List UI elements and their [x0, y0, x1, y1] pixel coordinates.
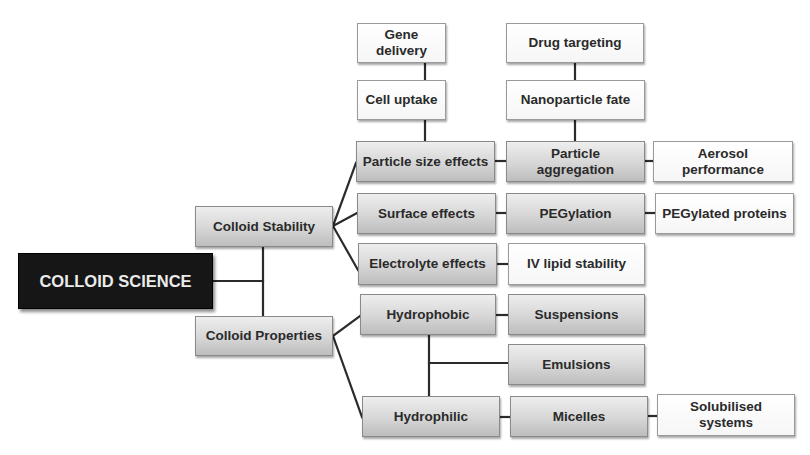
node-suspensions: Suspensions — [508, 294, 645, 335]
root-node-colloid-science: COLLOID SCIENCE — [18, 253, 213, 309]
node-drug-targeting: Drug targeting — [506, 23, 644, 63]
node-electrolyte-effects: Electrolyte effects — [358, 243, 497, 285]
node-pegylated-proteins: PEGylated proteins — [655, 193, 794, 234]
node-colloid-stability: Colloid Stability — [195, 206, 333, 247]
node-particle-aggregation: Particle aggregation — [506, 141, 645, 182]
node-cell-uptake: Cell uptake — [357, 80, 446, 120]
node-gene-delivery: Gene delivery — [357, 23, 446, 63]
node-emulsions: Emulsions — [508, 344, 645, 385]
node-solubilised-systems: Solubilised systems — [657, 394, 795, 436]
node-colloid-properties: Colloid Properties — [195, 316, 333, 356]
node-nanoparticle-fate: Nanoparticle fate — [506, 80, 645, 120]
node-micelles: Micelles — [510, 396, 648, 437]
node-hydrophobic: Hydrophobic — [360, 294, 496, 335]
node-particle-size-effects: Particle size effects — [356, 141, 495, 182]
node-iv-lipid-stability: IV lipid stability — [508, 243, 645, 285]
node-surface-effects: Surface effects — [357, 193, 496, 234]
node-aerosol-performance: Aerosol performance — [653, 141, 793, 182]
node-hydrophilic: Hydrophilic — [362, 396, 500, 437]
node-pegylation: PEGylation — [506, 193, 645, 234]
diagram-canvas: COLLOID SCIENCE Colloid Stability Colloi… — [0, 0, 810, 455]
